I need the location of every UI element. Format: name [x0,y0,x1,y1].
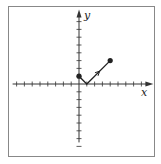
start-point [76,74,81,79]
curve [76,58,112,84]
graph-figure: y x [0,0,161,164]
y-axis-arrow-icon [77,10,82,18]
y-axis-label: y [83,9,91,22]
axes [13,10,154,147]
curve-path [79,61,110,84]
end-point [108,58,113,63]
x-axis-label: x [141,86,148,99]
